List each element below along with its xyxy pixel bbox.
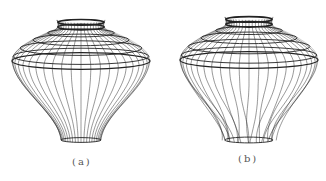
figure-b: (b) bbox=[163, 0, 326, 181]
caption-a: (a) bbox=[72, 156, 92, 167]
caption-b: (b) bbox=[238, 153, 258, 164]
figure-a: (a) bbox=[0, 0, 163, 181]
wireframe-vase-a bbox=[0, 0, 163, 181]
